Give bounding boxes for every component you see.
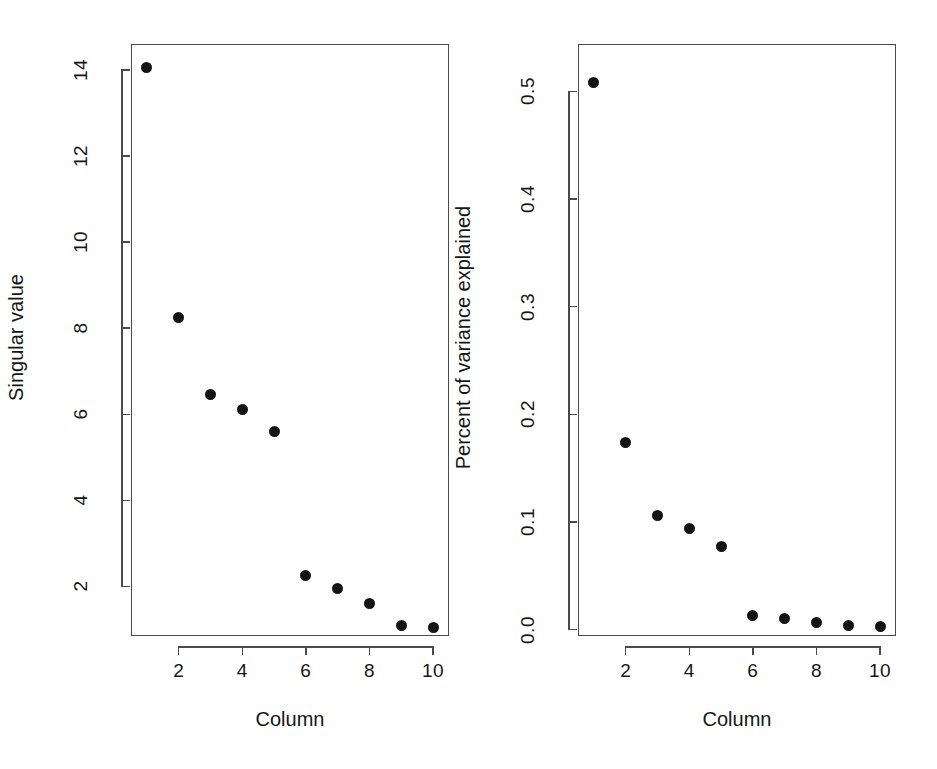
scree-plot-figure: 2468101214246810ColumnSingular value 0.0… — [0, 0, 937, 769]
y-tick-4 — [568, 198, 577, 200]
y-tick-4 — [121, 241, 130, 243]
data-point — [173, 312, 184, 323]
x-tick-0 — [625, 646, 627, 655]
y-tick-0 — [121, 586, 130, 588]
data-point — [620, 437, 631, 448]
y-tick-3 — [121, 327, 130, 329]
x-tick-4 — [879, 646, 881, 655]
x-tick-3 — [369, 646, 371, 655]
y-ticklabel-2: 0.2 — [517, 384, 539, 444]
data-point — [269, 426, 280, 437]
y-ticklabel-0: 0.0 — [517, 600, 539, 660]
data-point — [875, 621, 886, 632]
y-ticklabel-3: 8 — [70, 298, 92, 358]
plot-area-singular-value — [131, 44, 449, 636]
x-ticklabel-2: 6 — [723, 660, 783, 682]
x-ticklabel-1: 4 — [212, 660, 272, 682]
x-tick-3 — [816, 646, 818, 655]
y-tick-6 — [121, 69, 130, 71]
x-ticklabel-3: 8 — [340, 660, 400, 682]
y-ticklabel-0: 2 — [70, 556, 92, 616]
y-tick-1 — [121, 500, 130, 502]
x-ticklabel-0: 2 — [596, 660, 656, 682]
y-ticklabel-1: 4 — [70, 470, 92, 530]
data-point — [843, 620, 854, 631]
y-ticklabel-4: 0.4 — [517, 169, 539, 229]
x-axis-title: Column — [637, 708, 837, 731]
y-ticklabel-4: 10 — [70, 212, 92, 272]
data-point — [811, 617, 822, 628]
data-point — [428, 622, 439, 633]
data-point — [684, 523, 695, 534]
x-tick-1 — [689, 646, 691, 655]
y-ticklabel-6: 14 — [70, 40, 92, 100]
y-tick-5 — [121, 155, 130, 157]
x-tick-2 — [305, 646, 307, 655]
y-ticklabel-5: 0.5 — [517, 61, 539, 121]
x-tick-1 — [242, 646, 244, 655]
y-tick-2 — [568, 414, 577, 416]
x-tick-4 — [432, 646, 434, 655]
y-ticklabel-2: 6 — [70, 384, 92, 444]
x-ticklabel-0: 2 — [149, 660, 209, 682]
x-ticklabel-2: 6 — [276, 660, 336, 682]
y-ticklabel-5: 12 — [70, 126, 92, 186]
y-tick-3 — [568, 306, 577, 308]
y-axis-title: Percent of variance explained — [452, 188, 475, 488]
y-tick-5 — [568, 91, 577, 93]
y-ticklabel-3: 0.3 — [517, 277, 539, 337]
data-point — [716, 541, 727, 552]
y-axis-line — [568, 91, 570, 629]
x-ticklabel-1: 4 — [659, 660, 719, 682]
x-ticklabel-4: 10 — [850, 660, 910, 682]
x-tick-2 — [752, 646, 754, 655]
data-point — [396, 620, 407, 631]
panel-variance-explained: 0.00.10.20.30.40.5246810ColumnPercent of… — [468, 0, 937, 769]
x-axis-title: Column — [190, 708, 390, 731]
y-tick-2 — [121, 414, 130, 416]
plot-area-variance-explained — [578, 44, 896, 636]
y-tick-0 — [568, 629, 577, 631]
panel-singular-value: 2468101214246810ColumnSingular value — [0, 0, 468, 769]
data-point — [652, 510, 663, 521]
x-ticklabel-4: 10 — [403, 660, 463, 682]
y-axis-title: Singular value — [5, 188, 28, 488]
x-ticklabel-3: 8 — [787, 660, 847, 682]
x-tick-0 — [178, 646, 180, 655]
y-tick-1 — [568, 521, 577, 523]
y-ticklabel-1: 0.1 — [517, 492, 539, 552]
